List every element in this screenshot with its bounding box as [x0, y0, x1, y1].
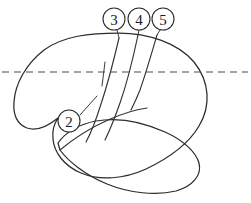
brain-diagram-figure: 2 3 4 5: [0, 0, 251, 203]
leader-line-5: [157, 30, 160, 35]
callout-label-4: 4: [135, 12, 143, 28]
short-branch-line: [102, 62, 105, 86]
leader-line-3: [117, 30, 119, 38]
diagram-canvas: 2 3 4 5: [0, 0, 251, 203]
callout-label-5: 5: [159, 12, 167, 28]
callout-marker-2[interactable]: 2: [58, 110, 80, 132]
callout-marker-3[interactable]: 3: [103, 8, 125, 30]
callout-label-2: 2: [65, 114, 73, 130]
sulcus-line-4: [105, 35, 138, 140]
callout-marker-5[interactable]: 5: [152, 8, 174, 30]
callout-marker-4[interactable]: 4: [128, 8, 150, 30]
leader-line-2: [80, 96, 97, 115]
callout-label-3: 3: [110, 12, 118, 28]
cerebrum-upper-mass-outline: [14, 33, 207, 178]
sulcus-line-3: [86, 38, 119, 142]
temporal-lobe-outline: [58, 120, 200, 194]
